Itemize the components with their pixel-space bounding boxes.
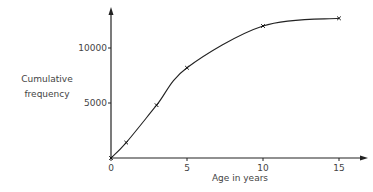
data-point-markers (109, 17, 341, 160)
cumulative-frequency-curve (111, 18, 339, 158)
axis-ticks (108, 48, 339, 161)
x-axis-label: Age in years (212, 173, 268, 183)
x-marker-icon (155, 103, 159, 107)
chart-canvas: 051015500010000 Age in years (0, 0, 373, 192)
x-axis-arrow-icon (360, 156, 368, 161)
x-tick-label: 0 (108, 163, 114, 173)
x-marker-icon (185, 66, 189, 70)
axis-tick-labels: 051015500010000 (78, 43, 344, 173)
x-tick-label: 5 (184, 163, 190, 173)
x-tick-label: 15 (333, 163, 344, 173)
x-tick-label: 10 (257, 163, 269, 173)
x-marker-icon (124, 141, 128, 145)
y-tick-label: 10000 (78, 43, 107, 53)
y-tick-label: 5000 (84, 98, 107, 108)
y-axis-arrow-icon (109, 7, 114, 15)
